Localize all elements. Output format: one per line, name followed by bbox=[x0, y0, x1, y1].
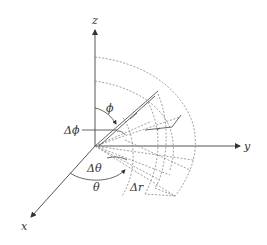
phi-label: ϕ bbox=[106, 102, 114, 115]
spherical-shell-grid bbox=[95, 57, 195, 196]
delta-phi-label: Δϕ bbox=[63, 124, 80, 137]
x-axis bbox=[31, 146, 95, 217]
volume-element bbox=[95, 91, 181, 146]
labels: z y x ϕ Δϕ Δθ θ Δr bbox=[21, 14, 251, 233]
theta-label: θ bbox=[93, 181, 100, 194]
spherical-coordinates-diagram: z y x ϕ Δϕ Δθ θ Δr bbox=[0, 0, 267, 245]
delta-phi-arc bbox=[117, 131, 125, 135]
z-axis-label: z bbox=[91, 14, 98, 27]
y-axis-label: y bbox=[243, 140, 251, 153]
delta-theta-label: Δθ bbox=[86, 162, 102, 175]
x-axis-label: x bbox=[21, 220, 28, 233]
delta-r-label: Δr bbox=[129, 181, 144, 194]
